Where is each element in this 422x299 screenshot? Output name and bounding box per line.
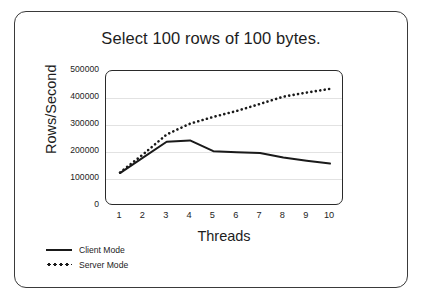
y-axis-tick-label: 100000 [41, 172, 99, 182]
solid-line-key [46, 245, 72, 255]
x-axis-tick-label: 4 [177, 210, 201, 220]
x-axis-tick-label: 3 [154, 210, 178, 220]
x-axis-tick-label: 5 [200, 210, 224, 220]
y-axis-tick-label: 300000 [41, 118, 99, 128]
legend-item[interactable]: Server Mode [46, 258, 226, 271]
y-axis-tick-label: 400000 [41, 91, 99, 101]
x-axis-tick-label: 6 [224, 210, 248, 220]
chart-legend: Client ModeServer Mode [46, 243, 226, 273]
legend-item[interactable]: Client Mode [46, 243, 226, 256]
y-axis-tick-label: 500000 [41, 64, 99, 74]
legend-item-label: Client Mode [79, 245, 125, 255]
y-axis-tick-label: 200000 [41, 145, 99, 155]
legend-key-mark [46, 263, 72, 266]
data-series-layer [106, 71, 343, 205]
x-axis-tick-label: 2 [130, 210, 154, 220]
plot-area [105, 70, 343, 205]
x-axis-tick-label: 8 [270, 210, 294, 220]
x-axis-tick-label: 1 [107, 210, 131, 220]
series-line-client-mode [120, 140, 330, 173]
y-axis-tick-label: 0 [41, 199, 99, 209]
x-axis-tick-label: 9 [294, 210, 318, 220]
x-axis-tick-label: 7 [247, 210, 271, 220]
x-axis-tick-label: 10 [317, 210, 341, 220]
x-axis-label: Threads [105, 228, 343, 244]
x-axis-tick-labels: 12345678910 [0, 210, 422, 224]
legend-item-label: Server Mode [79, 260, 128, 270]
legend-key-mark [46, 249, 72, 251]
dotted-line-key [46, 260, 72, 270]
chart-figure: Select 100 rows of 100 bytes. Rows/Secon… [0, 0, 422, 299]
